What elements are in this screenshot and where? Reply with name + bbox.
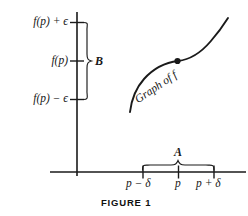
curve-point-marker — [174, 58, 180, 64]
brace-b-label: B — [95, 55, 103, 67]
x-axis-label-center: p — [175, 178, 181, 190]
figure-caption: FIGURE 1 — [101, 197, 151, 208]
y-axis-label-lower: f(p) − ϵ — [33, 93, 68, 105]
brace-b — [84, 23, 92, 100]
y-axis-label-middle: f(p) — [51, 55, 68, 67]
brace-a-label: A — [174, 146, 182, 158]
x-axis-label-left: p − δ — [126, 178, 151, 190]
y-axis-label-upper: f(p) + ϵ — [33, 16, 68, 28]
figure-container: f(p) + ϵ f(p) f(p) − ϵ B p − δ p p + δ A… — [0, 0, 248, 216]
x-axis-label-right: p + δ — [196, 178, 221, 190]
